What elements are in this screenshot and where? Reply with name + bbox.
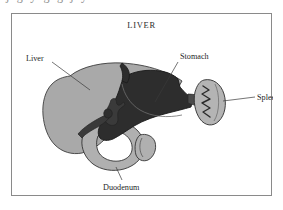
label-stomach: Stomach [180, 52, 209, 61]
scan-bleed-artifact: j g y g g j y [0, 0, 283, 11]
anatomy-diagram: Liver Stomach Spleen Duodenum [12, 14, 273, 197]
figure-frame: LIVER [11, 13, 272, 196]
clipped-text-above: j g y g g j y [6, 0, 89, 4]
label-duodenum: Duodenum [103, 183, 140, 192]
spleen-organ [194, 80, 225, 125]
gallbladder-shape [104, 109, 113, 118]
label-spleen: Spleen [257, 93, 273, 102]
duodenum-tail [135, 134, 156, 160]
label-liver: Liver [26, 54, 44, 63]
spleen-shape [194, 80, 225, 125]
spleen-leader-line [223, 97, 255, 101]
